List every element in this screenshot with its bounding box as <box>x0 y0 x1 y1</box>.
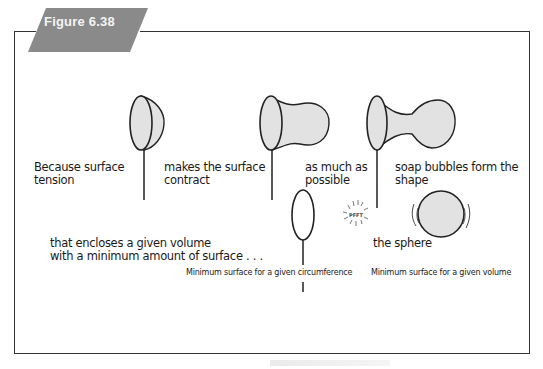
step-5-text: that encloses a given volume with a mini… <box>50 237 263 263</box>
step-2-text: makes the surface contract <box>164 161 265 187</box>
pfft-burst-icon: PFFT <box>343 200 368 226</box>
step-4-text: soap bubbles form the shape <box>395 161 518 187</box>
faint-bottom-caption <box>270 360 390 366</box>
step-6-text: the sphere <box>373 237 432 250</box>
caption-volume: Minimum surface for a given volume <box>371 268 511 278</box>
step-3-text: as much as possible <box>305 161 368 187</box>
step-1-text: Because surface tension <box>34 161 124 187</box>
floating-sphere-icon <box>412 191 469 237</box>
bubble-wand-hemisphere-icon <box>130 96 164 200</box>
pfft-text: PFFT <box>349 212 363 218</box>
caption-circumference: Minimum surface for a given circumferenc… <box>186 268 352 278</box>
